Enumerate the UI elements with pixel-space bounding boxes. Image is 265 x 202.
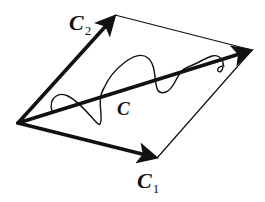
label-c2-subscript: 2 <box>85 23 92 38</box>
vector-diagram <box>0 0 265 202</box>
vector-c1-arrow <box>18 123 154 157</box>
label-c-main: C <box>117 98 130 119</box>
label-c2: C2 <box>69 12 90 34</box>
label-c1: C1 <box>137 170 158 192</box>
label-c2-main: C <box>69 10 84 35</box>
parallelogram-edge-top <box>115 15 252 50</box>
label-c: C <box>117 99 130 118</box>
label-c1-main: C <box>137 168 152 193</box>
label-c1-subscript: 1 <box>153 181 160 196</box>
